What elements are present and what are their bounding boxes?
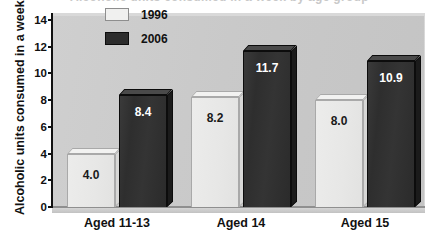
- y-axis-tick-label: 10: [34, 67, 47, 79]
- clipped-chart-title-text: Alcoholic units consumed in a week by ag…: [70, 0, 369, 4]
- y-axis-label: Alcoholic units consumed in a week: [13, 19, 27, 215]
- bar-2006-aged-11-13[interactable]: 8.4: [119, 95, 167, 207]
- legend-item-2006[interactable]: 2006: [105, 29, 168, 48]
- bar-value-label: 4.0: [67, 168, 115, 182]
- x-axis-category-label: Aged 11-13: [84, 216, 150, 230]
- legend-swatch-1996-icon: [105, 8, 129, 21]
- bar-side-face: [167, 89, 173, 207]
- bar-side-face: [415, 56, 421, 207]
- y-axis-tick-mark: [48, 126, 52, 128]
- legend-item-1996[interactable]: 1996: [105, 5, 168, 24]
- bar-1996-aged-11-13[interactable]: 4.0: [67, 154, 115, 207]
- clipped-chart-title: Alcoholic units consumed in a week by ag…: [0, 0, 441, 7]
- y-axis-tick-mark: [48, 153, 52, 155]
- bar-value-label: 8.0: [315, 114, 363, 128]
- bar-value-label: 11.7: [243, 61, 291, 75]
- y-axis-tick-label: 2: [41, 174, 47, 186]
- bar-value-label: 10.9: [367, 71, 415, 85]
- legend-label-2006: 2006: [141, 32, 168, 46]
- x-axis-category-label: Aged 15: [341, 216, 390, 230]
- x-axis-category-label: Aged 14: [217, 216, 266, 230]
- legend-label-1996: 1996: [141, 8, 168, 22]
- y-axis-tick-mark: [48, 19, 52, 21]
- bar-1996-aged-15[interactable]: 8.0: [315, 100, 363, 207]
- chart-floor-slab: [52, 208, 425, 213]
- bar-2006-aged-15[interactable]: 10.9: [367, 61, 415, 207]
- bar-1996-aged-14[interactable]: 8.2: [191, 97, 239, 207]
- legend-swatch-2006-icon: [105, 32, 129, 45]
- y-axis-tick-label: 8: [41, 94, 47, 106]
- bar-value-label: 8.4: [119, 105, 167, 119]
- y-axis-tick-mark: [48, 179, 52, 181]
- y-axis-tick-label: 6: [41, 121, 47, 133]
- bar-value-label: 8.2: [191, 111, 239, 125]
- chart-legend: 1996 2006: [105, 5, 168, 53]
- y-axis-tick-label: 12: [34, 41, 47, 53]
- y-axis-tick-mark: [48, 72, 52, 74]
- bar-2006-aged-14[interactable]: 11.7: [243, 51, 291, 207]
- y-axis-tick-mark: [48, 206, 52, 208]
- y-axis-tick-mark: [48, 46, 52, 48]
- bar-side-face: [291, 45, 297, 207]
- y-axis-tick-label: 0: [41, 201, 47, 213]
- y-axis-tick-label: 4: [41, 148, 47, 160]
- y-axis-tick-label: 14: [34, 14, 47, 26]
- y-axis-tick-mark: [48, 99, 52, 101]
